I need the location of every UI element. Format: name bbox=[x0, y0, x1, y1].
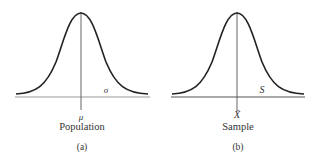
sample-title: Sample bbox=[222, 121, 254, 132]
panel-a-graphic bbox=[15, 12, 150, 110]
bell-curve-b bbox=[172, 13, 304, 94]
normal-curves-diagram bbox=[0, 0, 316, 162]
bell-curve-a bbox=[16, 13, 148, 94]
s-label: S bbox=[260, 84, 265, 95]
panel-b-tag: (b) bbox=[232, 142, 243, 152]
population-title: Population bbox=[59, 121, 105, 132]
x-bar-label: X̄ bbox=[234, 109, 240, 120]
panel-a-tag: (a) bbox=[77, 142, 88, 152]
panel-b-graphic bbox=[171, 12, 305, 110]
sigma-label: σ bbox=[104, 85, 108, 95]
